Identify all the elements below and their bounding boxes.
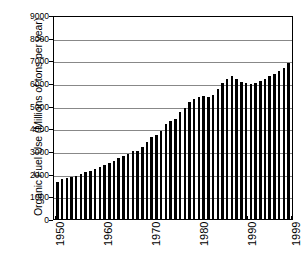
bar (207, 97, 210, 219)
bar-series (54, 17, 292, 219)
bar (259, 81, 262, 219)
bar (184, 108, 187, 219)
y-axis-tick-label: 7000 (16, 57, 49, 66)
bar (84, 172, 87, 219)
y-axis-tick-label: 4000 (16, 125, 49, 134)
x-axis-tick-label: 1999 (291, 202, 302, 246)
plot-area (53, 16, 293, 220)
bar (132, 151, 135, 219)
bar (250, 84, 253, 219)
y-axis-tick-label: 3000 (16, 148, 49, 157)
bar (117, 158, 120, 219)
bar (287, 63, 290, 219)
bar (283, 68, 286, 219)
bar (264, 79, 267, 219)
bar (94, 169, 97, 219)
bar (136, 151, 139, 219)
bar (193, 99, 196, 219)
x-axis-tick-label: 1980 (199, 202, 210, 246)
bar (146, 142, 149, 219)
x-axis-tick-labels: 195019601970198019901999 (53, 220, 293, 274)
x-axis-tick-mark (199, 216, 200, 220)
bar (231, 76, 234, 219)
y-axis-tick-label: 9000 (16, 12, 49, 21)
y-axis-tick-label: 0 (16, 216, 49, 225)
bar (240, 82, 243, 219)
bar (273, 74, 276, 219)
bar (165, 124, 168, 219)
bar (70, 177, 73, 219)
bar (268, 76, 271, 219)
bar (254, 83, 257, 219)
x-axis-tick-mark (103, 216, 104, 220)
bar (174, 119, 177, 219)
bar (202, 96, 205, 219)
y-axis-tick-labels: 9000800070006000500040003000200010000 (16, 16, 49, 220)
bar (217, 89, 220, 219)
bar (226, 79, 229, 219)
x-axis-tick-label: 1970 (151, 202, 162, 246)
bar (127, 154, 130, 219)
bar (245, 83, 248, 219)
bar (122, 156, 125, 219)
bar (89, 171, 92, 220)
x-axis-tick-label: 1960 (103, 202, 114, 246)
y-axis-tick-label: 1000 (16, 193, 49, 202)
x-axis-tick-mark (247, 216, 248, 220)
x-axis-tick-mark (55, 216, 56, 220)
bar (75, 176, 78, 219)
bar (188, 102, 191, 219)
bar (80, 174, 83, 219)
bar (141, 147, 144, 219)
bar (169, 121, 172, 219)
bar (99, 167, 102, 219)
bar (198, 97, 201, 219)
x-axis-tick-label: 1990 (247, 202, 258, 246)
y-axis-tick-label: 5000 (16, 103, 49, 112)
bar (278, 71, 281, 219)
chart-figure: Organic Fuel Use (Millions of tons per y… (0, 0, 302, 274)
x-axis-tick-mark (291, 216, 292, 220)
bar-slot (286, 17, 291, 219)
bar (221, 83, 224, 219)
x-axis-tick-label: 1950 (55, 202, 66, 246)
y-axis-tick-label: 6000 (16, 80, 49, 89)
bar (235, 79, 238, 219)
bar (179, 112, 182, 219)
y-axis-tick-label: 8000 (16, 35, 49, 44)
y-axis-tick-label: 2000 (16, 171, 49, 180)
x-axis-tick-mark (151, 216, 152, 220)
bar (212, 95, 215, 219)
